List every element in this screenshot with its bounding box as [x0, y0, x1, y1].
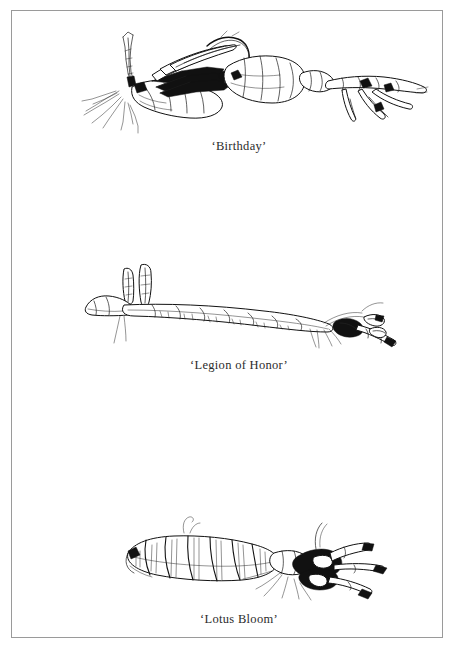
rhizome-illustration-2 [24, 259, 454, 351]
figure-caption: ‘Birthday’ [24, 140, 454, 154]
rhizome-drawing-lotus-bloom [126, 517, 387, 600]
figure-birthday: ‘Birthday’ [24, 29, 454, 169]
figure-caption: ‘Lotus Bloom’ [24, 613, 454, 627]
figure-lotus-bloom: ‘Lotus Bloom’ [24, 511, 454, 641]
figure-legion-of-honor: ‘Legion of Honor’ [24, 259, 454, 384]
plate-border: ‘Birthday’ [11, 10, 443, 638]
rhizome-illustration-3 [24, 511, 454, 603]
figure-caption: ‘Legion of Honor’ [24, 359, 454, 373]
rhizome-drawing-birthday [82, 31, 428, 133]
illustration-page: ‘Birthday’ [0, 0, 457, 653]
rhizome-illustration-1 [24, 29, 454, 134]
rhizome-drawing-legion-of-honor [85, 264, 396, 348]
